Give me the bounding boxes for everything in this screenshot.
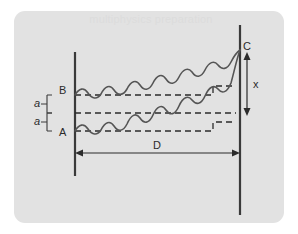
label-spacing-a-lower: a <box>34 116 40 127</box>
bracket-a-lower <box>43 113 52 131</box>
label-point-a: A <box>59 127 66 138</box>
dimension-x-arrow-down <box>244 108 251 116</box>
figure-container: multiphysics preparation B A C x D a <box>0 0 298 234</box>
wave-from-b <box>75 50 240 98</box>
dashed-line-a <box>75 122 232 131</box>
label-distance-d: D <box>153 140 161 151</box>
optics-diagram <box>0 0 298 234</box>
bracket-a-upper <box>43 95 52 113</box>
label-spacing-a-upper: a <box>34 98 40 109</box>
dimension-d-arrow-left <box>75 150 83 157</box>
dimension-d-arrow-right <box>232 150 240 157</box>
dimension-x-arrow-up <box>244 52 251 60</box>
label-displacement-x: x <box>253 79 259 90</box>
label-point-b: B <box>59 85 66 96</box>
label-point-c: C <box>243 41 251 52</box>
